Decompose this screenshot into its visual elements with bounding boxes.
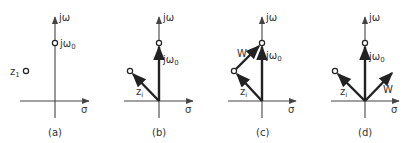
w-label: W — [237, 48, 247, 59]
caption-d: (d) — [358, 127, 372, 138]
zi-point — [127, 68, 132, 73]
jw0-label: jω0 — [162, 54, 179, 67]
zi-point — [332, 68, 337, 73]
zi-label: zi — [340, 86, 347, 99]
z1-label: z1 — [10, 66, 20, 79]
panel-c: jω σ jω0 zi W (c) — [228, 12, 296, 138]
caption-b: (b) — [152, 127, 166, 138]
zi-label: zi — [136, 86, 143, 99]
caption-c: (c) — [256, 127, 269, 138]
imag-axis-label: jω — [58, 12, 70, 23]
panel-d: jω σ jω0 zi W (d) — [331, 12, 399, 138]
jw0-label: jω0 — [59, 38, 76, 51]
s-plane-vector-diagram: jω σ jω0 z1 (a) jω σ jω0 zi (b) jω σ jω0… — [0, 0, 414, 143]
z1-point — [23, 68, 28, 73]
imag-axis-label: jω — [265, 12, 277, 23]
zi-point — [231, 68, 236, 73]
real-axis-label: σ — [288, 104, 295, 115]
jw0-label: jω0 — [368, 51, 385, 64]
panel-a: jω σ jω0 z1 (a) — [10, 12, 89, 138]
jw0-point — [52, 40, 57, 45]
caption-a: (a) — [48, 127, 62, 138]
jw0-label: jω0 — [265, 50, 282, 63]
real-axis-label: σ — [81, 104, 88, 115]
imag-axis-label: jω — [162, 12, 174, 23]
jw0-point — [362, 40, 367, 45]
w-label: W — [383, 84, 393, 95]
panel-b: jω σ jω0 zi (b) — [124, 12, 193, 138]
real-axis-label: σ — [391, 104, 398, 115]
imag-axis-label: jω — [368, 12, 380, 23]
zi-label: zi — [240, 86, 247, 99]
real-axis-label: σ — [185, 104, 192, 115]
jw0-point — [259, 40, 264, 45]
jw0-point — [156, 40, 161, 45]
